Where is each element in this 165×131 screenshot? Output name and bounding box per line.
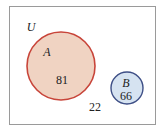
universe-label: U bbox=[27, 21, 36, 33]
set-a-value: 81 bbox=[56, 74, 68, 86]
set-a-label: A bbox=[43, 46, 50, 58]
outside-value: 22 bbox=[89, 101, 101, 113]
set-b-label: B bbox=[122, 77, 129, 89]
venn-labels: U A 81 B 66 22 bbox=[0, 0, 165, 131]
set-b-value: 66 bbox=[120, 90, 132, 102]
